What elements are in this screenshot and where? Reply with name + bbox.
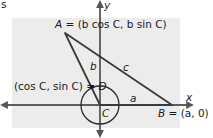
point-c-label: C (102, 107, 110, 119)
corner-fragment: s (1, 0, 6, 10)
side-a-label: a (130, 92, 136, 104)
point-d-label: (cos C, sin C) = D (14, 80, 107, 92)
point-a-label: A = (b cos C, b sin C) (54, 18, 167, 30)
background-panel (12, 18, 180, 128)
side-b-label: b (90, 60, 97, 72)
y-axis-label: y (103, 0, 111, 11)
x-axis-label: x (185, 91, 193, 103)
point-b-label: B = (a, 0) (158, 107, 209, 119)
side-c-label: c (123, 61, 129, 73)
triangle-diagram: s y x A = (b cos C, b sin C) (cos C, sin… (0, 0, 213, 138)
